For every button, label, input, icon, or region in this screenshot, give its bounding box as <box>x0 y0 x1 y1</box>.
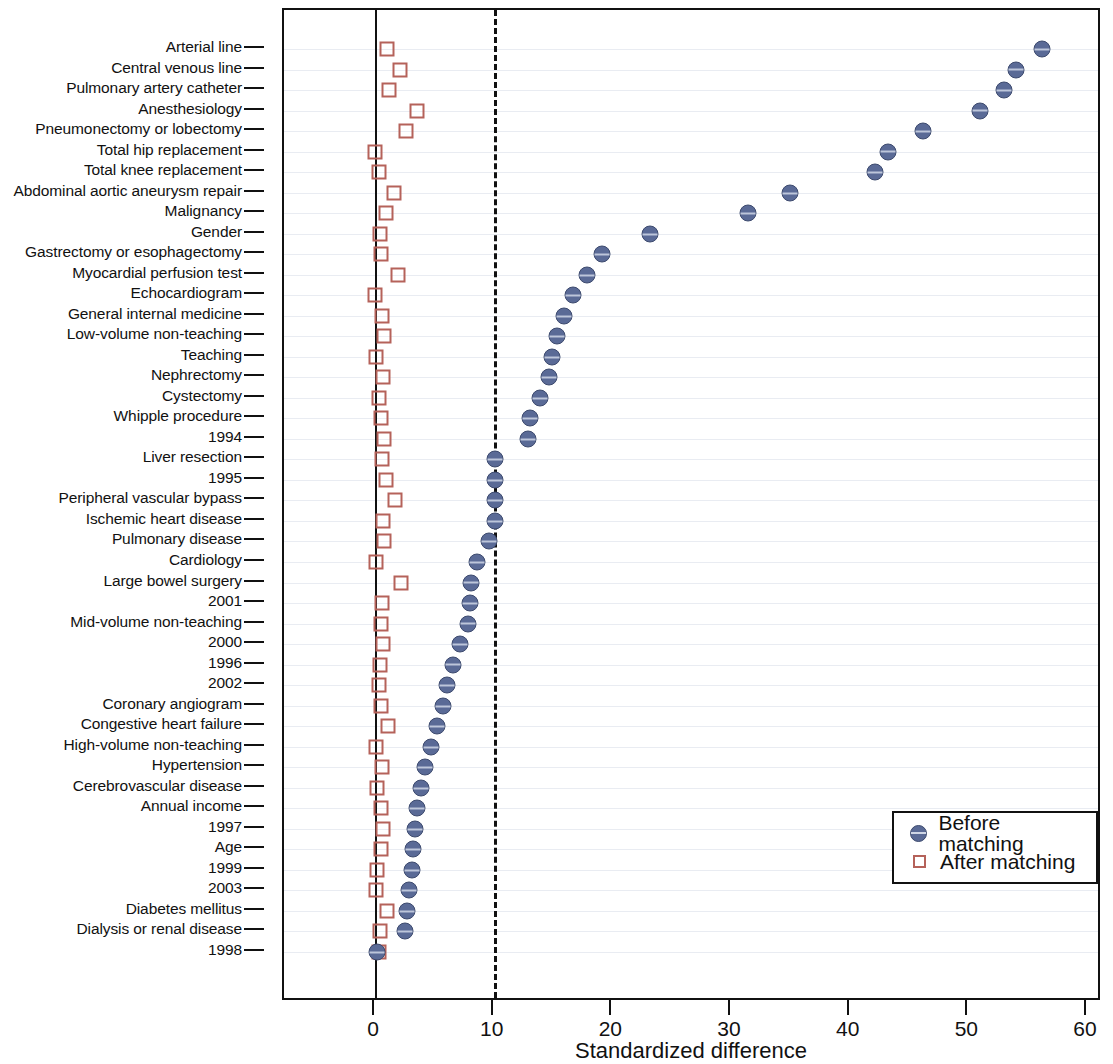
y-axis-tick <box>244 497 264 499</box>
data-point-before-matching <box>1033 41 1050 58</box>
y-axis-tick <box>244 456 264 458</box>
data-point-before-matching <box>439 677 456 694</box>
data-point-before-matching <box>486 512 503 529</box>
y-axis-label: Total knee replacement <box>84 162 242 178</box>
y-axis-label: Dialysis or renal disease <box>77 922 243 938</box>
y-axis-label: 2002 <box>208 675 242 691</box>
gridline <box>284 665 1098 666</box>
x-axis-tick <box>728 1000 730 1015</box>
y-axis-label: Echocardiogram <box>131 285 242 301</box>
y-axis-label: Central venous line <box>111 60 242 76</box>
y-axis-label: High-volume non-teaching <box>63 737 242 753</box>
data-point-after-matching <box>373 411 388 426</box>
data-point-before-matching <box>434 697 451 714</box>
data-point-before-matching <box>739 205 756 222</box>
y-axis-tick <box>244 682 264 684</box>
x-axis-tick <box>609 1000 611 1015</box>
data-point-after-matching <box>375 452 390 467</box>
data-point-before-matching <box>399 902 416 919</box>
data-point-before-matching <box>445 656 462 673</box>
data-point-after-matching <box>376 370 391 385</box>
gridline <box>284 500 1098 501</box>
data-point-before-matching <box>486 471 503 488</box>
y-axis-label: Anesthesiology <box>138 101 242 117</box>
y-axis-tick <box>244 764 264 766</box>
y-axis-tick <box>244 415 264 417</box>
gridline <box>284 480 1098 481</box>
data-point-after-matching <box>382 83 397 98</box>
gridline <box>284 336 1098 337</box>
y-axis-label: Gastrectomy or esophagectomy <box>25 244 242 260</box>
data-point-before-matching <box>486 492 503 509</box>
x-axis-tick-label: 30 <box>717 1018 740 1039</box>
x-axis-tick <box>965 1000 967 1015</box>
y-axis-tick <box>244 231 264 233</box>
data-point-before-matching <box>522 410 539 427</box>
data-point-before-matching <box>531 389 548 406</box>
data-point-after-matching <box>368 144 383 159</box>
gridline <box>284 952 1098 953</box>
data-point-after-matching <box>376 637 391 652</box>
x-axis-tick <box>847 1000 849 1015</box>
data-point-after-matching <box>378 472 393 487</box>
x-axis-title: Standardized difference <box>282 1040 1100 1062</box>
x-axis-tick <box>491 1000 493 1015</box>
gridline <box>284 152 1098 153</box>
data-point-before-matching <box>404 841 421 858</box>
gridline <box>284 747 1098 748</box>
x-axis-tick-label: 20 <box>599 1018 622 1039</box>
y-axis-tick <box>244 210 264 212</box>
y-axis-label: Cardiology <box>169 552 242 568</box>
x-axis-tick <box>372 1000 374 1015</box>
data-point-before-matching <box>579 266 596 283</box>
y-axis-tick <box>244 395 264 397</box>
y-axis-tick <box>244 436 264 438</box>
y-axis-label: Pulmonary disease <box>112 532 242 548</box>
gridline <box>284 562 1098 563</box>
gridline <box>284 726 1098 727</box>
data-point-before-matching <box>782 184 799 201</box>
data-point-before-matching <box>520 430 537 447</box>
y-axis-label: Age <box>215 840 242 856</box>
data-point-after-matching <box>369 555 384 570</box>
data-point-after-matching <box>375 308 390 323</box>
data-point-after-matching <box>370 862 385 877</box>
y-axis-label: 2003 <box>208 881 242 897</box>
y-axis-label: Low-volume non-teaching <box>67 327 242 343</box>
gridline <box>284 644 1098 645</box>
gridline <box>284 685 1098 686</box>
y-axis-tick <box>244 313 264 315</box>
gridline <box>284 172 1098 173</box>
y-axis-tick <box>244 887 264 889</box>
data-point-after-matching <box>373 842 388 857</box>
y-axis-tick <box>244 108 264 110</box>
y-axis-tick <box>244 641 264 643</box>
data-point-before-matching <box>541 369 558 386</box>
y-axis-label: 2001 <box>208 593 242 609</box>
y-axis-tick <box>244 928 264 930</box>
y-axis-label: Diabetes mellitus <box>126 901 242 917</box>
x-axis-tick-label: 10 <box>480 1018 503 1039</box>
data-point-after-matching <box>373 698 388 713</box>
data-point-before-matching <box>995 82 1012 99</box>
y-axis-tick <box>244 867 264 869</box>
gridline <box>284 275 1098 276</box>
y-axis-label: 1994 <box>208 429 242 445</box>
y-axis-label: Teaching <box>181 347 242 363</box>
data-point-before-matching <box>369 943 386 960</box>
data-point-before-matching <box>555 307 572 324</box>
y-axis-tick <box>244 149 264 151</box>
data-point-after-matching <box>373 247 388 262</box>
x-axis-tick-label: 50 <box>955 1018 978 1039</box>
data-point-after-matching <box>372 226 387 241</box>
data-point-before-matching <box>408 800 425 817</box>
y-axis-label: Arterial line <box>166 39 242 55</box>
y-axis-label: General internal medicine <box>68 306 242 322</box>
data-point-after-matching <box>368 288 383 303</box>
y-axis-label: 1998 <box>208 942 242 958</box>
filled-circle-icon <box>906 825 930 842</box>
gridline <box>284 624 1098 625</box>
data-point-after-matching <box>394 575 409 590</box>
y-axis-tick <box>244 949 264 951</box>
gridline <box>284 295 1098 296</box>
